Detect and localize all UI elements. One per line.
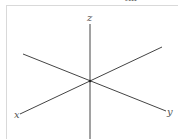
x-axis-label: x: [14, 110, 20, 120]
y-axis-label: y: [167, 107, 173, 117]
origin-point: [89, 80, 92, 83]
z-axis-label: z: [87, 13, 92, 23]
